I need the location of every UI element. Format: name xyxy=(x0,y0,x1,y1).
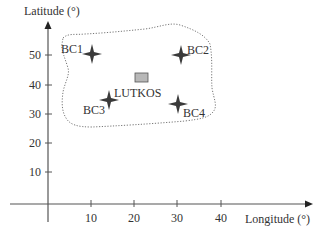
x-axis-arrow-icon xyxy=(305,201,313,208)
four-point-star-icon xyxy=(82,44,102,64)
y-axis-title: Latitude (°) xyxy=(24,4,80,18)
site-label-lutkos: LUTKOS xyxy=(114,86,161,100)
point-label-bc4: BC4 xyxy=(183,106,205,120)
x-tick-label: 10 xyxy=(85,211,97,225)
x-tick-label: 20 xyxy=(128,211,140,225)
x-axis-title: Longitude (°) xyxy=(245,212,310,226)
x-tick-label: 30 xyxy=(171,211,183,225)
point-label-bc1: BC1 xyxy=(61,42,83,56)
y-tick-label: 50 xyxy=(29,48,41,62)
x-tick-label: 40 xyxy=(215,211,227,225)
y-tick-label: 40 xyxy=(29,78,41,92)
lat-lon-diagram: 50 40 30 20 10 10 20 30 40 Latitude (°) … xyxy=(0,0,322,235)
y-axis-arrow-icon xyxy=(45,21,52,29)
star-bc1 xyxy=(82,44,102,64)
point-label-bc3: BC3 xyxy=(83,103,105,117)
point-label-bc2: BC2 xyxy=(187,43,209,57)
y-tick-label: 20 xyxy=(29,136,41,150)
y-tick-label: 10 xyxy=(29,165,41,179)
lutkos-site-marker xyxy=(135,73,148,82)
y-tick-label: 30 xyxy=(29,107,41,121)
